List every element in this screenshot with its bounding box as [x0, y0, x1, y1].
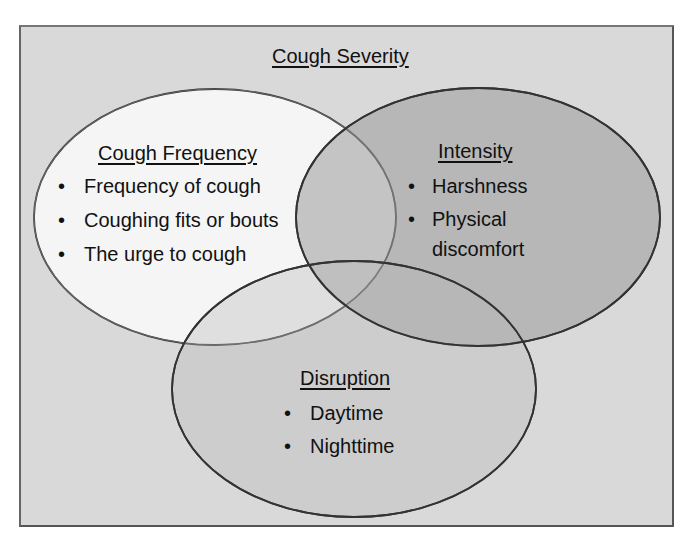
diagram-title: Cough Severity	[272, 46, 409, 66]
bullet-icon: •	[408, 209, 415, 229]
bullet-icon: •	[284, 436, 291, 456]
frequency-heading: Cough Frequency	[98, 143, 257, 163]
intensity-item: Harshness	[432, 176, 528, 196]
intensity-item: Physical	[432, 209, 506, 229]
frequency-item: Frequency of cough	[84, 176, 261, 196]
bullet-icon: •	[284, 403, 291, 423]
venn-diagram	[0, 0, 693, 539]
bullet-icon: •	[58, 176, 65, 196]
frequency-item: The urge to cough	[84, 244, 246, 264]
frequency-item: Coughing fits or bouts	[84, 210, 279, 230]
bullet-icon: •	[58, 210, 65, 230]
bullet-icon: •	[58, 244, 65, 264]
disruption-item: Nighttime	[310, 436, 394, 456]
intensity-heading: Intensity	[438, 141, 512, 161]
bullet-icon: •	[408, 176, 415, 196]
intensity-item-continued: discomfort	[432, 239, 524, 259]
disruption-heading: Disruption	[300, 368, 390, 388]
disruption-item: Daytime	[310, 403, 383, 423]
